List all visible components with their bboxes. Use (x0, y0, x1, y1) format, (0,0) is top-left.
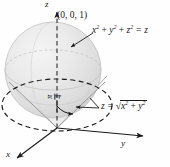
x-axis-label: x (6, 150, 10, 159)
x-axis (17, 128, 57, 158)
radicand: x2 + y2 (120, 100, 146, 111)
point-label-0-0-1: (0, 0, 1) (57, 11, 87, 21)
y-axis (57, 128, 143, 136)
cone-label-leader-kink (90, 98, 99, 108)
angle-denominator: 4 (55, 94, 64, 100)
cone-equation-label: z = √x2 + y2 (101, 102, 147, 112)
sphere-eq-plus-1: + (99, 25, 109, 35)
pi-over-4-fraction: π4 (46, 94, 63, 100)
cone-rad-y-exp: 2 (143, 100, 146, 106)
cone-eq-lhs: z = (101, 101, 116, 111)
sphere-surface (5, 22, 101, 118)
z-axis-label: z (45, 0, 49, 9)
sphere-cone-figure: z y x (0, 0, 1) x2 + y2 + z2 = z z = √x2… (0, 0, 170, 167)
y-axis-label: y (121, 139, 125, 148)
angle-label-pi-over-4: π4 (46, 94, 63, 100)
cone-rad-plus: + (128, 101, 138, 111)
sphere-eq-rhs: = z (133, 25, 148, 35)
sphere-eq-plus-2: + (116, 25, 126, 35)
sphere-equation-label: x2 + y2 + z2 = z (92, 26, 148, 36)
angle-numerator: π (46, 94, 54, 100)
